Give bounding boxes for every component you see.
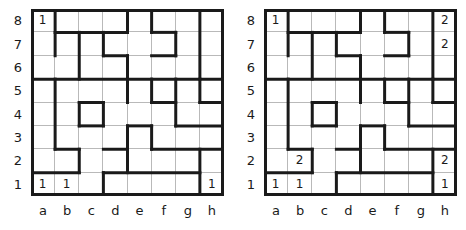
row-label: 3 bbox=[8, 126, 28, 149]
col-label: g bbox=[176, 198, 200, 222]
puzzle-grid-right[interactable]: 12222111 bbox=[264, 9, 457, 196]
col-label: c bbox=[312, 198, 336, 222]
row-label: 5 bbox=[8, 79, 28, 102]
col-label: b bbox=[55, 198, 79, 222]
col-label: a bbox=[31, 198, 55, 222]
row-label: 3 bbox=[241, 126, 261, 149]
col-label: b bbox=[288, 198, 312, 222]
row-label: 2 bbox=[8, 149, 28, 172]
col-label: f bbox=[152, 198, 176, 222]
row-label: 6 bbox=[241, 56, 261, 79]
row-label: 5 bbox=[241, 79, 261, 102]
puzzle-panel-right: 8 7 6 5 4 3 2 1 12222111 a b c d e f g h bbox=[233, 0, 466, 230]
puzzle-figure: 8 7 6 5 4 3 2 1 1111 a b c d e f g h 8 bbox=[0, 0, 466, 230]
row-label: 4 bbox=[8, 103, 28, 126]
row-label: 1 bbox=[241, 173, 261, 196]
col-label: e bbox=[361, 198, 385, 222]
puzzle-panel-left: 8 7 6 5 4 3 2 1 1111 a b c d e f g h bbox=[0, 0, 233, 230]
col-label: d bbox=[336, 198, 360, 222]
row-label: 4 bbox=[241, 103, 261, 126]
row-label: 7 bbox=[8, 32, 28, 55]
col-label: h bbox=[433, 198, 457, 222]
col-label: h bbox=[200, 198, 224, 222]
row-label: 2 bbox=[241, 149, 261, 172]
row-label: 8 bbox=[8, 9, 28, 32]
col-label: e bbox=[128, 198, 152, 222]
column-labels-left: a b c d e f g h bbox=[31, 198, 224, 222]
grid-outline-right bbox=[264, 9, 457, 196]
col-label: c bbox=[79, 198, 103, 222]
row-label: 6 bbox=[8, 56, 28, 79]
row-label: 8 bbox=[241, 9, 261, 32]
puzzle-grid-left[interactable]: 1111 bbox=[31, 9, 224, 196]
row-label: 7 bbox=[241, 32, 261, 55]
row-labels-right: 8 7 6 5 4 3 2 1 bbox=[241, 9, 261, 196]
col-label: f bbox=[385, 198, 409, 222]
grid-outline-left bbox=[31, 9, 224, 196]
row-label: 1 bbox=[8, 173, 28, 196]
col-label: d bbox=[103, 198, 127, 222]
col-label: g bbox=[409, 198, 433, 222]
row-labels-left: 8 7 6 5 4 3 2 1 bbox=[8, 9, 28, 196]
column-labels-right: a b c d e f g h bbox=[264, 198, 457, 222]
col-label: a bbox=[264, 198, 288, 222]
